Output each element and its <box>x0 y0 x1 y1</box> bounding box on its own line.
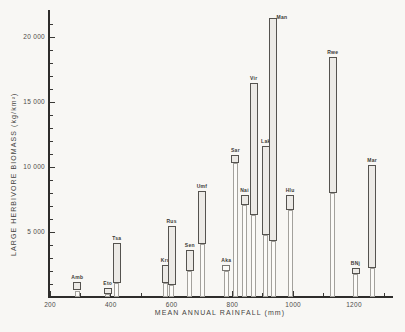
y-minor-tick <box>50 76 53 77</box>
bar-stem-BNj <box>353 274 358 297</box>
biomass-rainfall-chart: 5 00010 00015 00020 00020040060080010001… <box>0 0 405 332</box>
site-label-Mar: Mar <box>360 157 384 163</box>
y-minor-tick <box>50 284 53 285</box>
bar-box-Nai <box>241 195 249 205</box>
site-label-Tsa: Tsa <box>105 235 129 241</box>
bar-stem-Nai <box>242 205 247 297</box>
bar-box-Amb <box>73 282 81 290</box>
x-minor-tick <box>384 293 385 296</box>
x-tick-label: 1000 <box>279 301 307 308</box>
x-tick-label: 600 <box>158 301 186 308</box>
y-minor-tick <box>50 193 53 194</box>
x-minor-tick <box>323 293 324 296</box>
bar-stem-Mar <box>370 268 375 297</box>
site-label-Vir: Vir <box>242 75 266 81</box>
bar-stem-Eto <box>105 294 110 297</box>
x-minor-tick <box>141 293 142 296</box>
site-label-Umf: Umf <box>190 183 214 189</box>
x-minor-tick <box>80 293 81 296</box>
bar-stem-Aka <box>224 271 229 297</box>
bar-stem-Amb <box>75 291 80 298</box>
y-axis-title: LARGE HERBIVORE BIOMASS (kg/km²) <box>10 92 17 256</box>
bar-box-Vir <box>250 83 258 215</box>
bar-box-Tsa <box>113 243 121 283</box>
bar-stem-Rus <box>169 285 174 297</box>
y-minor-tick <box>50 271 53 272</box>
y-minor-tick <box>50 245 53 246</box>
y-major-tick <box>50 232 55 233</box>
site-label-Rwe: Rwe <box>321 49 345 55</box>
x-tick-label: 400 <box>97 301 125 308</box>
x-tick-label: 1200 <box>340 301 368 308</box>
bar-box-BNj <box>352 268 360 273</box>
y-major-tick <box>50 167 55 168</box>
bar-box-Rus <box>168 226 176 286</box>
bar-box-Mar <box>368 165 376 268</box>
y-minor-tick <box>50 141 53 142</box>
site-label-Hlu: Hlu <box>278 187 302 193</box>
site-label-Amb: Amb <box>65 274 89 280</box>
bar-stem-Lak <box>263 235 268 297</box>
y-minor-tick <box>50 258 53 259</box>
bar-box-Rwe <box>329 57 337 194</box>
bar-stem-Man <box>271 241 276 297</box>
y-minor-tick <box>50 50 53 51</box>
bar-box-Man <box>269 18 277 241</box>
x-tick-label: 200 <box>36 301 64 308</box>
bar-box-Eto <box>104 288 112 295</box>
y-minor-tick <box>50 128 53 129</box>
y-minor-tick <box>50 115 53 116</box>
x-tick-label: 800 <box>218 301 246 308</box>
y-minor-tick <box>50 154 53 155</box>
y-minor-tick <box>50 219 53 220</box>
site-label-Rus: Rus <box>160 218 184 224</box>
bar-stem-Tsa <box>114 283 119 297</box>
y-major-tick <box>50 102 55 103</box>
bar-box-Aka <box>222 265 230 272</box>
y-minor-tick <box>50 180 53 181</box>
x-axis-title: MEAN ANNUAL RAINFALL (mm) <box>90 309 350 316</box>
bar-box-Hlu <box>286 195 294 210</box>
bar-box-Umf <box>198 191 206 244</box>
bar-stem-Sen <box>187 271 192 297</box>
bar-box-Sen <box>186 250 194 271</box>
x-major-tick <box>293 291 294 296</box>
site-label-Sar: Sar <box>223 147 247 153</box>
y-tick-label: 20 000 <box>12 33 45 40</box>
site-label-BNj: BNj <box>344 260 368 266</box>
y-minor-tick <box>50 63 53 64</box>
bar-stem-Hlu <box>288 210 293 297</box>
x-major-tick <box>50 291 51 296</box>
y-major-tick <box>50 37 55 38</box>
chart-layer: 5 00010 00015 00020 00020040060080010001… <box>0 0 405 332</box>
bar-stem-Rwe <box>330 193 335 297</box>
bar-box-Sar <box>231 155 239 163</box>
y-minor-tick <box>50 24 53 25</box>
y-minor-tick <box>50 206 53 207</box>
bar-stem-Sar <box>233 163 238 297</box>
site-label-Man: Man <box>276 14 300 20</box>
bar-stem-Vir <box>251 215 256 297</box>
bar-stem-Umf <box>200 244 205 297</box>
y-minor-tick <box>50 89 53 90</box>
